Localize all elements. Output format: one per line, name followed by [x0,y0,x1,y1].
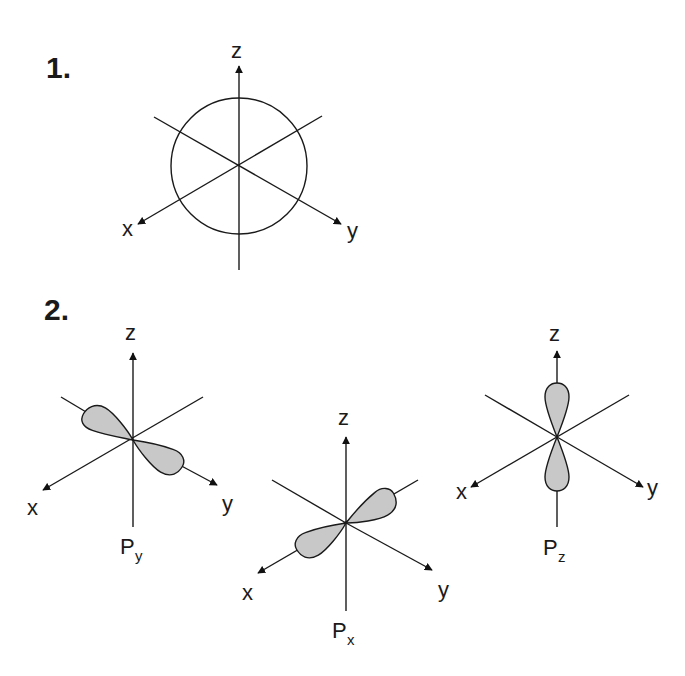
orbital-label-p: P [120,534,135,559]
orbital-label-p: P [332,618,347,643]
orbital-label-subscript: z [558,548,566,565]
orbital-diagram: 1. z x y 2. z x y P y [0,0,685,676]
x-axis-label: x [27,495,38,520]
part-1-number: 1. [46,51,71,84]
y-axis-label: y [438,577,449,602]
y-axis [346,523,432,570]
lobe-negative [78,400,140,451]
y-axis-label: y [647,475,658,500]
z-axis-label: z [231,38,242,63]
x-axis [138,116,322,224]
x-axis-label: x [122,216,133,241]
pz-orbital: z x y P z [456,321,658,565]
lobe-back [340,484,402,535]
y-axis-label: y [347,218,358,243]
y-axis-back [272,480,346,523]
py-orbital: z x y P y [27,320,233,564]
z-axis-label: z [549,321,560,346]
lobe-front [291,512,353,563]
orbital-label-subscript: x [347,631,355,648]
orbital-label-p: P [543,535,558,560]
x-axis-label: x [242,580,253,605]
z-axis-label: z [125,320,136,345]
x-axis-label: x [456,479,467,504]
y-axis [557,437,643,487]
z-axis-label: z [338,405,349,430]
y-axis [154,117,341,224]
x-axis [43,397,203,490]
lobe-upper [545,383,569,437]
part-1-s-orbital: 1. z x y [46,38,358,270]
lobe-lower [545,437,569,491]
orbital-label-subscript: y [135,547,143,564]
y-axis-label: y [222,491,233,516]
part-2-number: 2. [44,293,69,326]
px-orbital: z x y P x [242,405,449,648]
